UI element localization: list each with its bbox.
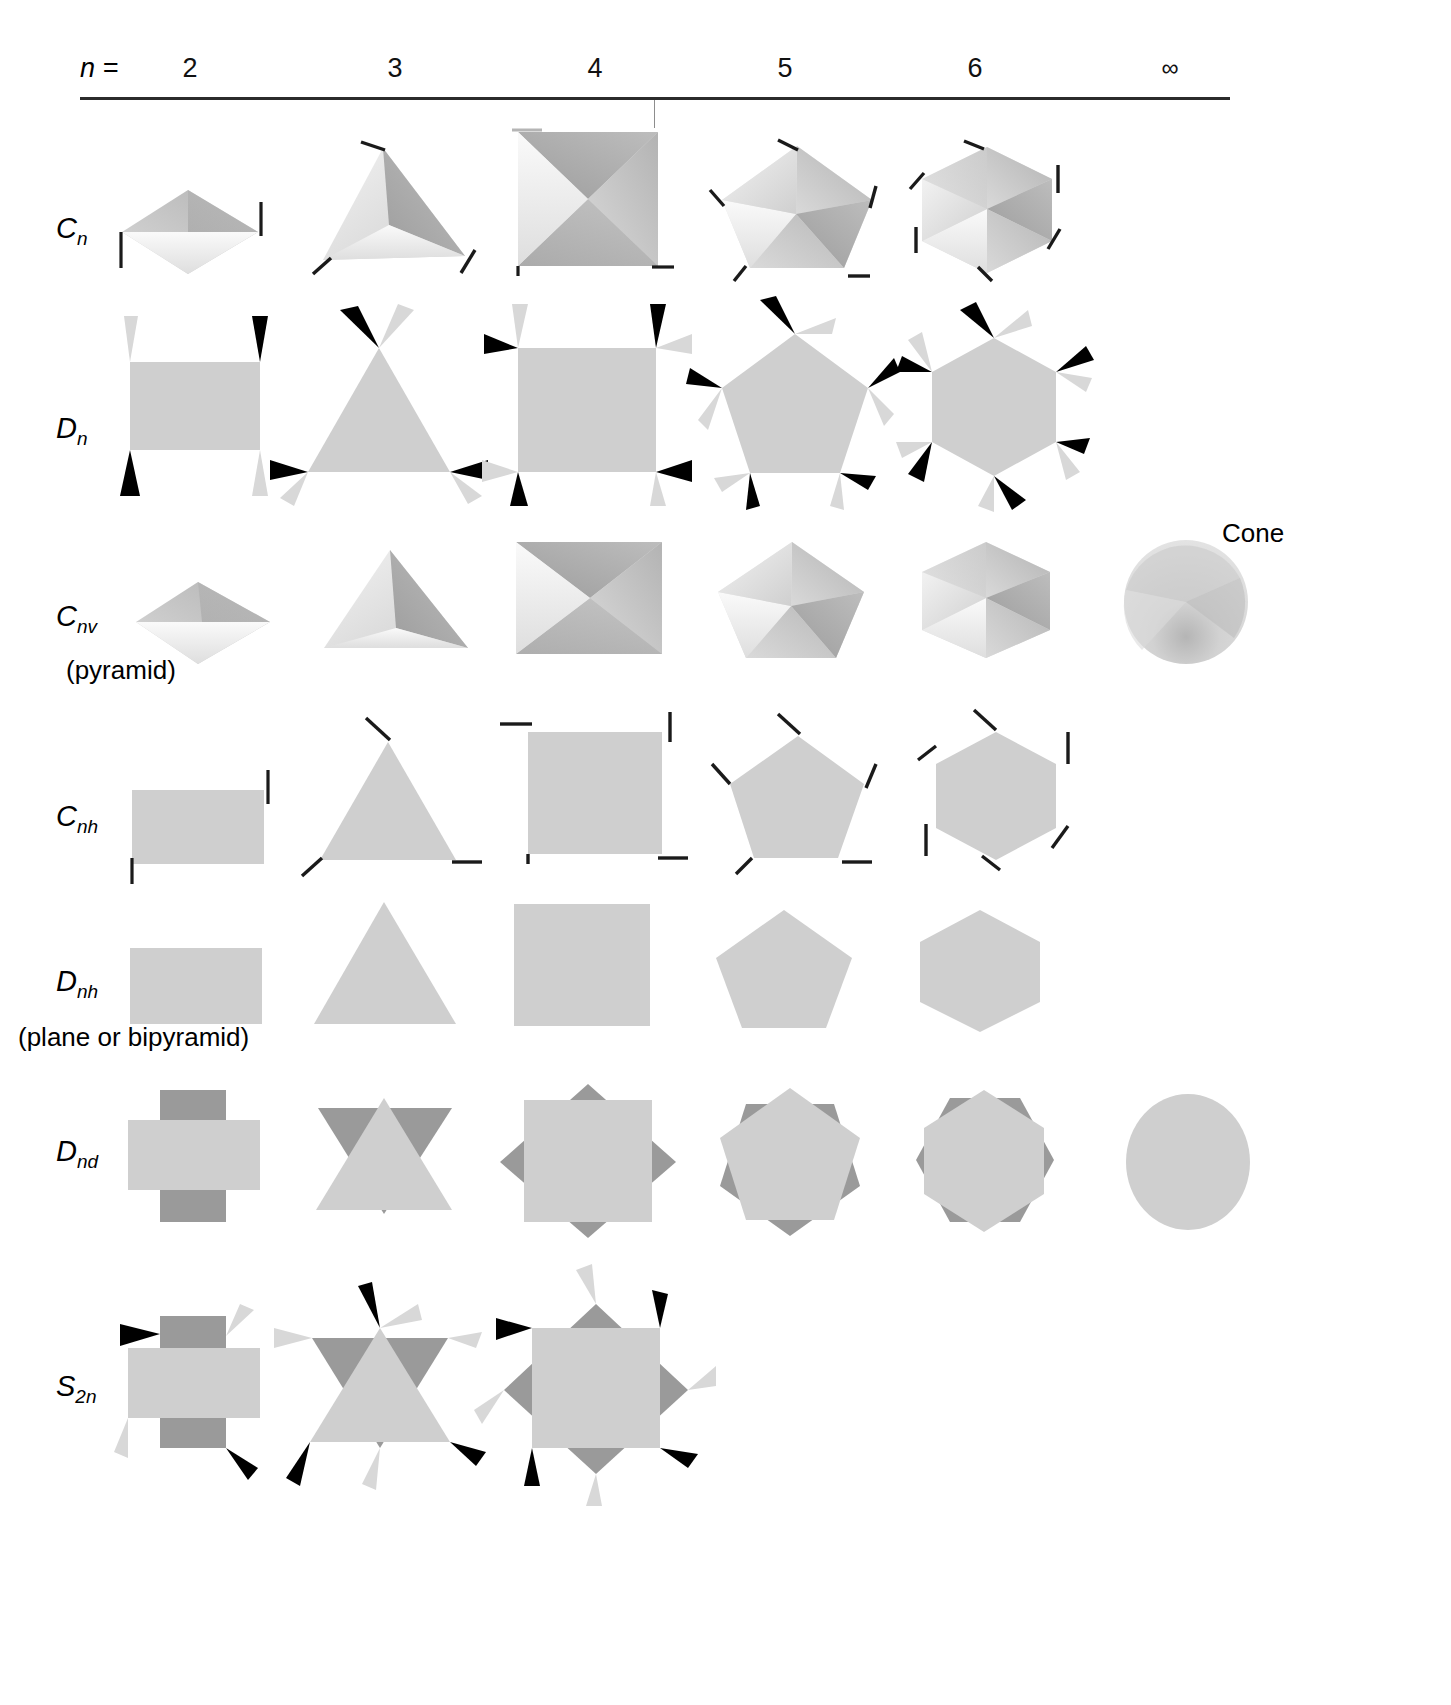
flag-gray xyxy=(362,1448,380,1490)
flag-gray xyxy=(714,473,750,492)
cell-dnh-n2 xyxy=(128,942,268,1032)
tick-mark xyxy=(734,266,746,281)
flag-gray xyxy=(656,334,692,354)
tick-mark xyxy=(313,258,331,274)
flag-gray xyxy=(482,460,518,482)
flag-black xyxy=(746,473,760,510)
flag-gray xyxy=(274,1328,312,1348)
flag-gray xyxy=(830,473,844,510)
cell-dn-n2 xyxy=(100,300,290,510)
flag-gray xyxy=(978,476,994,512)
tick-mark xyxy=(366,718,390,740)
cell-s2n-n3 xyxy=(276,1272,496,1500)
flag-black xyxy=(496,1318,532,1340)
flag-gray xyxy=(252,450,268,496)
flag-black xyxy=(656,460,692,482)
flag-gray xyxy=(994,310,1032,338)
flag-gray xyxy=(226,1304,254,1336)
flag-gray xyxy=(512,304,528,348)
flag-black xyxy=(484,334,518,354)
cell-s2n-n4 xyxy=(476,1266,716,1502)
flag-black xyxy=(358,1282,380,1328)
tick-mark xyxy=(870,186,876,208)
flag-gray xyxy=(474,1390,504,1424)
column-header-5: 5 xyxy=(725,52,845,84)
tick-mark xyxy=(461,250,475,273)
row-label-dnh: Dnh xyxy=(56,965,98,1008)
flag-gray xyxy=(795,318,836,334)
row-label-cnv: Cnv xyxy=(56,600,97,643)
flag-black xyxy=(286,1442,310,1486)
flag-black xyxy=(652,1290,668,1328)
flag-gray xyxy=(650,472,666,506)
cell-dn-n6 xyxy=(890,296,1100,512)
flag-gray xyxy=(124,316,138,362)
cell-cnh-n4 xyxy=(492,708,688,868)
cell-cn-n6 xyxy=(900,145,1075,275)
cell-cnv-infinity-cone xyxy=(1122,538,1252,668)
cell-cnv-n4 xyxy=(512,540,668,658)
cell-dnd-n4 xyxy=(490,1080,690,1242)
flag-black xyxy=(340,306,379,348)
cell-cnh-n6 xyxy=(900,706,1096,876)
flag-black xyxy=(1056,346,1094,372)
flag-gray xyxy=(379,304,414,348)
cell-dnh-n3 xyxy=(300,898,470,1032)
header-rule xyxy=(80,97,1230,100)
header-rule-tick xyxy=(654,100,655,128)
flag-gray xyxy=(576,1264,596,1304)
flag-black xyxy=(840,473,876,490)
flag-black xyxy=(270,460,308,480)
flag-black xyxy=(120,1324,160,1346)
flag-black xyxy=(760,296,795,334)
column-header-3: 3 xyxy=(335,52,455,84)
cell-cnv-n2 xyxy=(132,580,282,668)
flag-gray xyxy=(114,1418,128,1458)
flag-black xyxy=(960,302,994,338)
flag-black xyxy=(510,472,528,506)
column-header-4: 4 xyxy=(535,52,655,84)
cell-dnh-n4 xyxy=(510,900,662,1032)
flag-black xyxy=(686,368,722,388)
row-label-dn: Dn xyxy=(56,412,88,455)
tick-mark xyxy=(778,714,800,734)
cell-dnd-n2 xyxy=(126,1088,276,1238)
column-header-6: 6 xyxy=(915,52,1035,84)
tick-mark xyxy=(866,764,876,788)
flag-gray xyxy=(586,1474,602,1506)
tick-mark xyxy=(1052,826,1068,848)
cell-cnv-n5 xyxy=(712,540,872,662)
tick-mark xyxy=(302,858,322,876)
cell-cn-n2 xyxy=(118,190,288,280)
cell-dnd-n3 xyxy=(296,1084,476,1236)
flag-gray xyxy=(280,472,308,506)
cell-dn-n4 xyxy=(480,300,695,510)
column-header-infinity: ∞ xyxy=(1110,52,1230,84)
cell-dn-n5 xyxy=(688,298,903,510)
cell-cn-n5 xyxy=(712,142,882,277)
cell-dnh-n5 xyxy=(710,906,860,1032)
flag-black xyxy=(994,476,1026,510)
column-header-2: 2 xyxy=(130,52,250,84)
tick-mark xyxy=(712,764,730,784)
flag-gray xyxy=(688,1366,716,1390)
cell-cn-n3 xyxy=(305,140,495,285)
row-label-cnh: Cnh xyxy=(56,800,98,843)
cell-cnv-n6 xyxy=(902,540,1070,660)
tick-mark xyxy=(361,142,385,150)
cell-dnd-n6 xyxy=(900,1084,1070,1240)
row-label-dnd: Dnd xyxy=(56,1135,98,1178)
flag-gray xyxy=(1056,372,1092,392)
cell-dnd-infinity-circle xyxy=(1120,1090,1260,1236)
flag-black xyxy=(650,304,666,348)
flag-gray xyxy=(380,1304,422,1328)
cell-cnh-n5 xyxy=(700,712,896,872)
tick-mark xyxy=(910,173,924,189)
cell-cnv-n3 xyxy=(312,548,482,658)
tick-mark xyxy=(964,141,984,149)
tick-mark xyxy=(736,858,752,874)
header-row: n = 2 3 4 5 6 ∞ xyxy=(0,52,1451,96)
flag-black xyxy=(524,1448,540,1486)
tick-mark xyxy=(974,710,996,730)
cell-dnh-n6 xyxy=(906,906,1056,1032)
